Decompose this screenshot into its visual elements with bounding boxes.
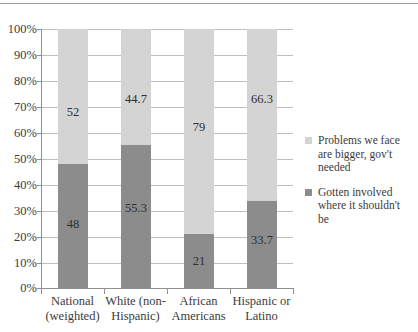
category-label-line1: African: [167, 294, 230, 309]
category-label-line1: Hispanic or: [230, 294, 293, 309]
y-axis-label: 30%: [1, 205, 37, 217]
y-axis-label: 40%: [1, 179, 37, 191]
category-label-line1: National: [41, 294, 104, 309]
x-axis-category: Hispanic or Latino: [230, 294, 293, 332]
legend-swatch-icon: [305, 189, 312, 196]
y-axis-labels: 100% 90% 80% 70% 60% 50% 40% 30% 20% 10%…: [0, 0, 37, 332]
x-axis-tick: [293, 289, 294, 294]
bar-segment-top[interactable]: [58, 29, 88, 164]
legend-label-line3: needed: [318, 161, 351, 173]
y-axis-label: 0%: [1, 282, 37, 294]
plot-area: 52 48 44.7 55.3 79 21: [41, 29, 293, 288]
y-axis-label: 60%: [1, 127, 37, 139]
y-axis-line: [41, 29, 42, 289]
legend-label-line3: be: [318, 213, 329, 225]
category-label-line2: Americans: [167, 309, 230, 324]
bar-value-label-bottom: 48: [58, 217, 88, 232]
y-axis-label: 100%: [1, 23, 37, 35]
x-axis-category: National (weighted): [41, 294, 104, 332]
bar-group: 44.7 55.3: [104, 29, 167, 288]
stacked-bar-chart: 100% 90% 80% 70% 60% 50% 40% 30% 20% 10%…: [0, 0, 418, 332]
category-label-line2: Latino: [230, 309, 293, 324]
bar-value-label-top: 79: [184, 120, 214, 135]
bar-value-label-top: 44.7: [121, 92, 151, 107]
figure-top-border: [0, 3, 418, 4]
bar-group: 79 21: [167, 29, 230, 288]
bar-segment-top[interactable]: [121, 29, 151, 145]
bar-value-label-bottom: 55.3: [121, 201, 151, 216]
legend-label-line1: Problems we face: [318, 134, 400, 146]
x-axis-category-labels: National (weighted) White (non- Hispanic…: [41, 294, 293, 332]
bar-value-label-top: 52: [58, 105, 88, 120]
x-axis-category: African Americans: [167, 294, 230, 332]
y-axis-label: 70%: [1, 101, 37, 113]
chart-legend: Problems we face are bigger, gov't neede…: [305, 134, 413, 237]
bar-group: 52 48: [41, 29, 104, 288]
legend-item-bottom-series[interactable]: Gotten involved where it shouldn't be: [305, 186, 413, 227]
legend-swatch-icon: [305, 137, 312, 144]
bar-group: 66.3 33.7: [230, 29, 293, 288]
x-axis-category: White (non- Hispanic): [104, 294, 167, 332]
bar-value-label-top: 66.3: [247, 92, 277, 107]
legend-label-line1: Gotten involved: [318, 186, 392, 198]
bar-value-label-bottom: 33.7: [247, 233, 277, 248]
y-axis-label: 90%: [1, 49, 37, 61]
category-label-line2: Hispanic): [104, 309, 167, 324]
y-axis-label: 10%: [1, 257, 37, 269]
y-axis-label: 80%: [1, 75, 37, 87]
legend-label-line2: are bigger, gov't: [318, 148, 392, 160]
legend-item-top-series[interactable]: Problems we face are bigger, gov't neede…: [305, 134, 413, 175]
y-axis-label: 50%: [1, 153, 37, 165]
bar-segment-bottom[interactable]: [121, 145, 151, 288]
category-label-line1: White (non-: [104, 294, 167, 309]
bar-segment-top[interactable]: [247, 29, 277, 201]
category-label-line2: (weighted): [41, 309, 104, 324]
y-axis-label: 20%: [1, 231, 37, 243]
legend-label-line2: where it shouldn't: [318, 199, 400, 211]
bar-value-label-bottom: 21: [184, 254, 214, 269]
